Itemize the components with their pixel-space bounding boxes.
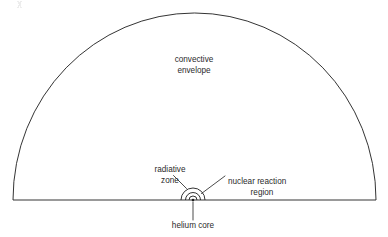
nuclear-reaction-region-arc xyxy=(181,188,205,200)
envelope-arc xyxy=(13,13,376,200)
core-region-rings xyxy=(181,188,205,201)
helium-core-label: helium core xyxy=(172,221,215,230)
radiative-zone-label: radiative zone xyxy=(155,165,186,185)
nuclear-reaction-region-label: nuclear reaction region xyxy=(228,177,287,197)
helium-core-label-line1: helium core xyxy=(172,221,215,230)
nuclear-reaction-region-label-line1: nuclear reaction xyxy=(228,177,287,186)
nuclear-reaction-region-leader-line xyxy=(202,176,226,194)
radiative-zone-label-line2: zone xyxy=(161,176,179,185)
convective-envelope-label-line2: envelope xyxy=(177,66,211,75)
radiative-zone-label-line1: radiative xyxy=(155,165,186,174)
convective-envelope-label: convective envelope xyxy=(175,55,214,75)
convective-envelope-label-line1: convective xyxy=(175,55,214,64)
star-cross-section-figure: convective envelope radiative zone nucle… xyxy=(0,0,388,237)
helium-core-dot xyxy=(192,199,195,202)
nuclear-reaction-region-label-line2: region xyxy=(251,188,274,197)
convective-envelope-outline xyxy=(13,13,376,200)
diagram-canvas: convective envelope radiative zone nucle… xyxy=(0,0,388,237)
